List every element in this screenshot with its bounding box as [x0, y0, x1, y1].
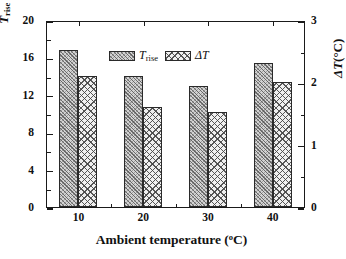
y-axis-left-title: Trise (°C): [0, 0, 12, 60]
legend-label-trise: Trise: [139, 48, 158, 63]
legend-swatch-trise-icon: [109, 51, 135, 61]
bar-trise: [189, 86, 208, 207]
y-axis-left-tick-label: 16: [8, 52, 34, 64]
y-axis-left-tick: [47, 134, 53, 135]
y-axis-right-title-unit: (°C): [330, 39, 345, 62]
legend: Trise ΔT: [109, 48, 209, 63]
x-axis-minor-tick: [241, 204, 242, 208]
x-axis-top-tick: [79, 22, 80, 26]
legend-label-deltat: ΔT: [195, 48, 209, 63]
y-axis-left-tick: [47, 96, 53, 97]
x-axis-tick-label: 40: [253, 212, 293, 224]
x-axis-minor-tick: [176, 204, 177, 208]
y-axis-left-minor-tick: [47, 78, 51, 79]
x-axis-tick-label: 30: [188, 212, 228, 224]
x-axis-tick-label: 20: [123, 212, 163, 224]
y-axis-left-minor-tick: [47, 190, 51, 191]
y-axis-left-tick-label: 4: [8, 165, 34, 177]
y-axis-right-tick-label: 0: [311, 202, 333, 214]
y-axis-left-tick: [47, 59, 53, 60]
bar-trise: [124, 76, 143, 207]
bar-deltat: [143, 107, 162, 207]
y-axis-left-tick-label: 12: [8, 90, 34, 102]
y-axis-left-tick: [47, 171, 53, 172]
legend-swatch-deltat-icon: [165, 51, 191, 61]
y-axis-right-title-symbol: ΔT: [330, 62, 345, 78]
y-axis-right-title: ΔT(°C): [330, 0, 346, 78]
bar-deltat: [208, 112, 227, 207]
y-axis-left-tick-label: 20: [8, 15, 34, 27]
y-axis-left-minor-tick: [47, 115, 51, 116]
y-axis-right-tick: [298, 21, 304, 22]
bar-deltat: [78, 76, 97, 207]
y-axis-right-tick-label: 3: [311, 15, 333, 27]
y-axis-right-tick: [298, 208, 304, 209]
legend-item-deltat: ΔT: [165, 48, 209, 63]
y-axis-right-tick: [298, 84, 304, 85]
degree-icon: o: [229, 232, 233, 242]
y-axis-right-minor-tick: [301, 115, 305, 116]
y-axis-right-minor-tick: [301, 53, 305, 54]
y-axis-right-tick-label: 1: [311, 140, 333, 152]
y-axis-left-title-subscript: rise: [2, 3, 12, 16]
legend-item-trise: Trise: [109, 48, 158, 63]
y-axis-right-minor-tick: [301, 177, 305, 178]
y-axis-left-minor-tick: [47, 40, 51, 41]
x-axis-top-tick: [144, 22, 145, 26]
bar-trise: [59, 50, 78, 207]
x-axis-title-text: Ambient temperature: [96, 232, 221, 247]
bar-deltat: [273, 82, 292, 207]
x-axis-title: Ambient temperature (oC): [0, 232, 343, 248]
plot-area: Trise ΔT: [46, 21, 305, 208]
y-axis-left-tick: [47, 21, 53, 22]
y-axis-left-tick: [47, 208, 53, 209]
bar-trise: [254, 63, 273, 207]
y-axis-right-tick-label: 2: [311, 77, 333, 89]
y-axis-left-tick-label: 0: [8, 202, 34, 214]
x-axis-top-tick: [273, 22, 274, 26]
x-axis-top-tick: [208, 22, 209, 26]
x-axis-tick-label: 10: [58, 212, 98, 224]
y-axis-left-minor-tick: [47, 152, 51, 153]
y-axis-right-tick: [298, 146, 304, 147]
x-axis-title-unit: (oC): [224, 232, 247, 247]
y-axis-left-tick-label: 8: [8, 127, 34, 139]
x-axis-minor-tick: [111, 204, 112, 208]
